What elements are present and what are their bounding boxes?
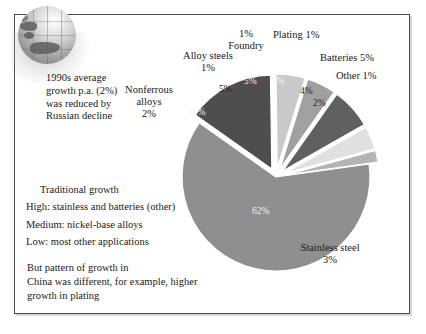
label-foundry: 1% Foundry	[220, 28, 272, 52]
slice-pct-15: 15%	[188, 107, 205, 117]
slice-pct-62: 62%	[252, 206, 269, 216]
slice-pct-2: 2%	[313, 98, 326, 108]
slice-pct-7: 7%	[272, 76, 285, 86]
pie-chart: 62% 15% 5% 5% 7% 4% 2% Nonferrous alloys…	[168, 60, 418, 290]
label-batteries: Batteries 5%	[320, 52, 374, 64]
slice-pct-5-foundry: 5%	[244, 76, 257, 86]
slice-pct-5-alloy: 5%	[219, 84, 232, 94]
label-alloy-steels: Alloy steels 1%	[174, 50, 242, 74]
china-line-3: growth in plating	[27, 290, 237, 303]
label-other: Other 1%	[336, 70, 377, 82]
slide-canvas: 1990s average growth p.a. (2%) was reduc…	[0, 0, 426, 334]
slice-pct-4: 4%	[300, 86, 313, 96]
label-plating: Plating 1%	[273, 29, 319, 41]
label-nonferrous-alloys: Nonferrous alloys 2%	[112, 84, 186, 120]
label-stainless-steel: Stainless steel 3%	[284, 242, 376, 266]
